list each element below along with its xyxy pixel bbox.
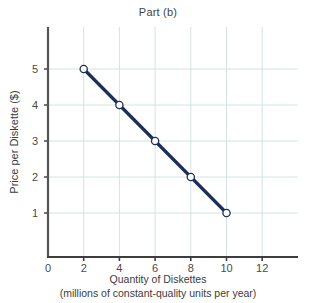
y-tick-label-4: 4 xyxy=(32,99,38,111)
data-point-10-1 xyxy=(223,209,230,216)
data-point-4-4 xyxy=(116,101,123,108)
gridlines-vertical xyxy=(84,27,263,257)
y-tick-label-3: 3 xyxy=(32,135,38,147)
gridlines-horizontal xyxy=(48,69,298,213)
x-axis-subtitle: (millions of constant-quality units per … xyxy=(0,286,316,300)
y-tick-label-2: 2 xyxy=(32,171,38,183)
data-point-8-2 xyxy=(187,173,194,180)
x-axis-title: Quantity of Diskettes xyxy=(0,272,316,286)
data-point-2-5 xyxy=(80,65,87,72)
y-axis-title: Price per Diskette ($) xyxy=(8,90,20,193)
axis-spines xyxy=(47,27,298,257)
data-point-6-3 xyxy=(152,137,159,144)
chart-figure: Part (b) xyxy=(0,0,316,303)
plot-area: 5 4 3 2 1 0 2 4 6 8 10 12 Price per Disk… xyxy=(0,0,316,303)
y-tick-label-5: 5 xyxy=(32,63,38,75)
y-tick-label-1: 1 xyxy=(32,207,38,219)
x-axis-title-block: Quantity of Diskettes (millions of const… xyxy=(0,272,316,300)
